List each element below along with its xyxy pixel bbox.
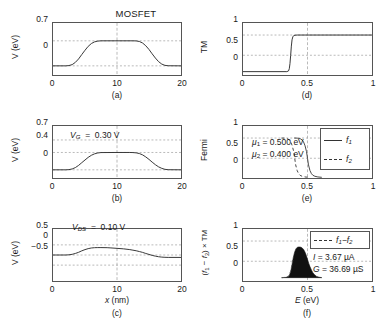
legend-item-f2: f2 bbox=[324, 154, 352, 164]
panel-d-ylabel: TM bbox=[199, 27, 209, 67]
panel-d-ytick-1: 1 bbox=[210, 14, 238, 24]
panel-a-ytick-0.7: 0.7 bbox=[20, 14, 48, 24]
panel-e-ytick-0.5: 0.5 bbox=[210, 138, 238, 148]
panel-a-xtick-0: 0 bbox=[42, 78, 62, 88]
panel-f-xtick-0.5: 0.5 bbox=[297, 284, 317, 294]
panel-d-xtick-0.5: 0.5 bbox=[297, 78, 317, 88]
panel-b-caption: (b) bbox=[92, 193, 142, 203]
legend-line-dashed-icon bbox=[324, 159, 342, 160]
panel-c-xtick-10: 10 bbox=[107, 284, 127, 294]
panel-b-ytick-0: 0 bbox=[20, 148, 48, 158]
panel-e-xtick-0: 0 bbox=[232, 181, 252, 191]
panel-f-legend: f1−f2 bbox=[310, 231, 370, 249]
panel-c-xlabel: x (nm) bbox=[92, 295, 142, 305]
panel-d-ytick-0.5: 0.5 bbox=[210, 35, 238, 45]
panel-d-caption: (d) bbox=[282, 90, 332, 100]
panel-f-xlabel: E (eV) bbox=[282, 295, 332, 305]
panel-c-caption: (c) bbox=[92, 308, 142, 318]
panel-c-xtick-0: 0 bbox=[42, 284, 62, 294]
panel-e-ytick-0: 0 bbox=[210, 155, 238, 165]
panel-f-ytick-0: 0 bbox=[210, 258, 238, 268]
panel-a-axes bbox=[52, 22, 182, 76]
panel-f-xtick-1: 1 bbox=[363, 284, 383, 294]
panel-f-xtick-0: 0 bbox=[232, 284, 252, 294]
panel-d-ytick-0: 0 bbox=[210, 52, 238, 62]
panel-b-ylabel: V (eV) bbox=[10, 125, 20, 175]
panel-e-ylabel: Fermi bbox=[199, 126, 209, 174]
panel-f-ylabel: (f1 − f2) × TM bbox=[200, 211, 209, 295]
legend-line-dashed-icon bbox=[314, 240, 332, 241]
panel-a-xtick-20: 20 bbox=[172, 78, 192, 88]
panel-c-annotation-vds: VDS = 0.10 V bbox=[72, 222, 125, 232]
legend-item-f1: f1 bbox=[324, 135, 352, 145]
panel-f-annotation-current: I = 3.67 µA bbox=[313, 252, 355, 262]
panel-e-xtick-0.5: 0.5 bbox=[297, 181, 317, 191]
panel-a-caption: (a) bbox=[92, 90, 142, 100]
panel-f-ytick-0.5: 0.5 bbox=[210, 241, 238, 251]
panel-b-ytick-0.7: 0.7 bbox=[20, 117, 48, 127]
panel-f-annotation-conductance: G = 36.69 µS bbox=[313, 264, 364, 274]
mosfet-figure: MOSFET 0.7 0 0 10 20 V (eV) (a) bbox=[0, 0, 383, 325]
panel-b-ytick-0.4: 0.4 bbox=[20, 130, 48, 140]
panel-b-xtick-0: 0 bbox=[42, 181, 62, 191]
legend-line-solid-icon bbox=[324, 140, 342, 141]
legend-label-f2: f2 bbox=[346, 154, 352, 164]
panel-a-ytick-0: 0 bbox=[20, 40, 48, 50]
panel-c-xtick-20: 20 bbox=[172, 284, 192, 294]
panel-f-ytick-1: 1 bbox=[210, 220, 238, 230]
legend-label-f1: f1 bbox=[346, 135, 352, 145]
panel-e-annotation-mu2: μ2 = 0.400 eV bbox=[252, 149, 304, 159]
panel-e-xtick-1: 1 bbox=[363, 181, 383, 191]
panel-b-annotation-vg: VG = 0.30 V bbox=[70, 130, 119, 140]
panel-e-annotation-mu1: μ1 = 0.500 eV bbox=[252, 137, 304, 147]
panel-c-axes bbox=[52, 228, 182, 282]
legend-item-f1-minus-f2: f1−f2 bbox=[314, 235, 353, 245]
figure-title: MOSFET bbox=[86, 8, 186, 19]
panel-b-xtick-20: 20 bbox=[172, 181, 192, 191]
panel-b-xtick-10: 10 bbox=[107, 181, 127, 191]
panel-c-ylabel: V (eV) bbox=[10, 228, 20, 278]
legend-label-f1-minus-f2: f1−f2 bbox=[336, 235, 353, 245]
panel-d-xtick-1: 1 bbox=[363, 78, 383, 88]
panel-e-ytick-1: 1 bbox=[210, 117, 238, 127]
panel-f-caption: (f) bbox=[282, 308, 332, 318]
panel-d-axes bbox=[242, 22, 373, 76]
panel-a-ylabel: V (eV) bbox=[10, 22, 20, 72]
panel-a-xtick-10: 10 bbox=[107, 78, 127, 88]
panel-e-legend: f1 f2 bbox=[320, 128, 370, 170]
panel-e-caption: (e) bbox=[282, 193, 332, 203]
panel-d-xtick-0: 0 bbox=[232, 78, 252, 88]
